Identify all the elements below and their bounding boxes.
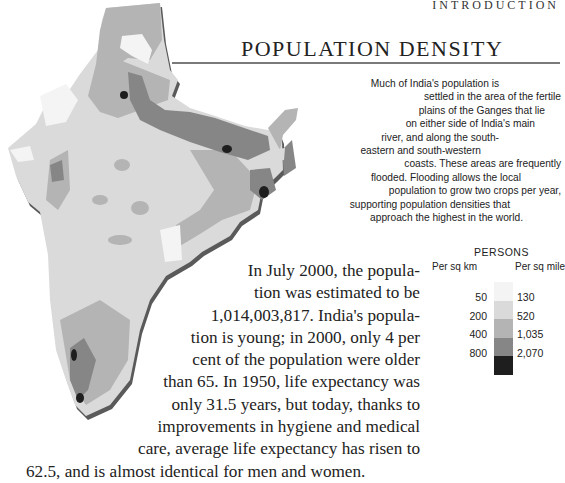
body-line: than 65. In 1950, life expectancy was: [40, 371, 420, 393]
caption-line: population to grow two crops per year,: [293, 184, 561, 197]
body-line: 1,014,003,817. India's popula-: [40, 305, 420, 327]
legend-swatch: [494, 338, 513, 357]
caption-line: supporting population densities that: [293, 198, 510, 211]
body-line: care, average life expectancy has risen …: [40, 438, 420, 460]
map-zone-highest: [120, 91, 128, 99]
caption-line: settled in the area of the fertile: [293, 90, 561, 103]
legend-mile-value: 520: [517, 307, 543, 326]
body-line: improvements in hygiene and medical: [40, 416, 420, 438]
legend-km-value: 400: [454, 325, 487, 344]
caption-line: approach the highest in the world.: [293, 211, 523, 224]
body-line: tion is young; in 2000, only 4 per: [40, 327, 420, 349]
legend-swatch: [494, 356, 513, 375]
legend-km-values: 50 200 400 800: [454, 288, 487, 362]
caption-line: river, and along the south-: [293, 131, 499, 144]
map-zone-mid: [92, 195, 108, 205]
map-zone-highest: [222, 145, 232, 153]
legend-units: Per sq km Per sq mile: [432, 261, 565, 272]
caption-line: on either side of India's main: [293, 117, 535, 130]
legend-swatch: [494, 301, 513, 320]
legend-km-value: 800: [454, 344, 487, 363]
body-line: tion was estimated to be: [40, 282, 420, 304]
caption-line: plains of the Ganges that lie: [293, 104, 545, 117]
map-zone-mid: [131, 201, 149, 215]
caption-line: Much of India's population is: [293, 77, 499, 90]
map-northeast: [270, 148, 285, 162]
legend-title: PERSONS: [438, 246, 565, 258]
density-legend: PERSONS Per sq km Per sq mile 50 200 400…: [432, 246, 565, 272]
legend-mile-values: 130 520 1,035 2,070: [517, 288, 543, 362]
map-zone-highest: [259, 186, 269, 198]
legend-km-value: 200: [454, 307, 487, 326]
legend-unit-km: Per sq km: [432, 261, 477, 272]
caption-line: flooded. Flooding allows the local: [293, 171, 521, 184]
caption-line: coasts. These areas are frequently: [293, 157, 561, 170]
legend-unit-mile: Per sq mile: [515, 261, 565, 272]
legend-mile-value: 1,035: [517, 325, 543, 344]
legend-swatch: [494, 319, 513, 338]
body-line: 62.5, and is almost identical for men an…: [26, 461, 420, 483]
legend-mile-value: 2,070: [517, 344, 543, 363]
legend-mile-value: 130: [517, 288, 543, 307]
body-paragraph: In July 2000, the popula- tion was estim…: [40, 260, 420, 483]
body-line: cent of the population were older: [40, 349, 420, 371]
legend-km-value: 50: [454, 288, 487, 307]
map-zone-mid: [114, 159, 130, 171]
legend-swatch: [494, 282, 513, 301]
map-zone-mid: [108, 235, 132, 245]
legend-color-bar: [494, 282, 513, 370]
body-line: only 31.5 years, but today, thanks to: [40, 394, 420, 416]
map-caption: Much of India's population is settled in…: [293, 77, 561, 224]
body-line: In July 2000, the popula-: [40, 260, 420, 282]
caption-line: eastern and south-western: [293, 144, 481, 157]
